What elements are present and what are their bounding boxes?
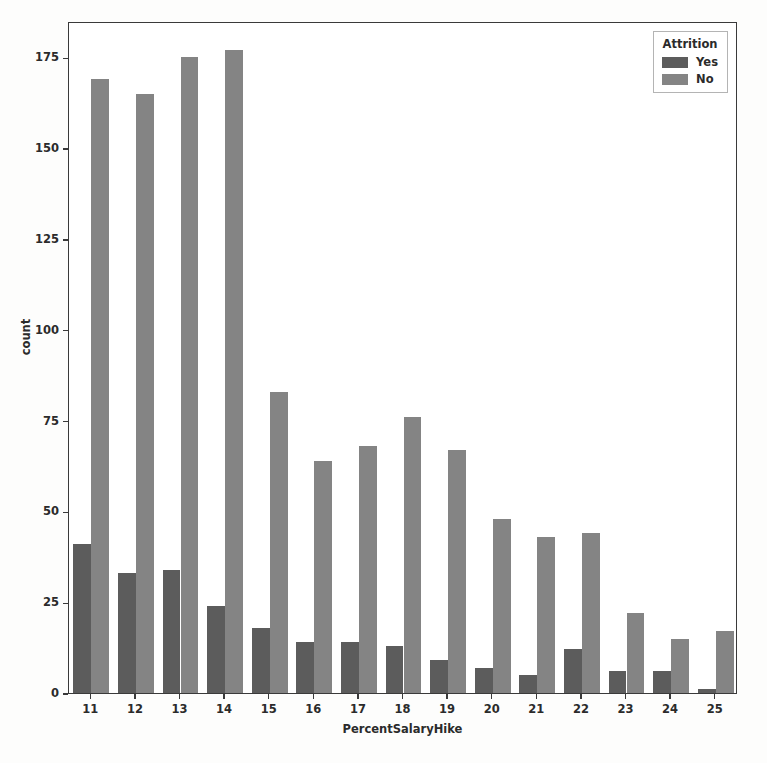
x-tick-label: 16 <box>299 702 327 716</box>
y-tick-mark <box>63 693 68 694</box>
bar-no-13 <box>181 57 199 693</box>
bar-yes-13 <box>163 570 181 694</box>
y-tick-label: 50 <box>43 504 59 518</box>
bar-no-12 <box>136 94 154 693</box>
y-tick-mark <box>63 512 68 513</box>
bar-yes-21 <box>519 675 537 693</box>
bar-no-21 <box>537 537 555 693</box>
bar-yes-25 <box>698 689 716 693</box>
x-tick-mark <box>669 694 670 699</box>
legend-swatch-no <box>662 74 688 85</box>
x-tick-label: 22 <box>567 702 595 716</box>
bar-no-22 <box>582 533 600 693</box>
x-tick-mark <box>268 694 269 699</box>
x-tick-mark <box>714 694 715 699</box>
x-tick-label: 23 <box>612 702 640 716</box>
bar-yes-23 <box>609 671 627 693</box>
x-tick-mark <box>179 694 180 699</box>
bar-no-20 <box>493 519 511 693</box>
chart-figure: count Attrition Yes No 02550751001251501… <box>0 0 767 763</box>
y-tick-mark <box>63 421 68 422</box>
x-tick-label: 20 <box>478 702 506 716</box>
bar-yes-16 <box>296 642 314 693</box>
y-tick-label: 150 <box>35 141 59 155</box>
plot-area: Attrition Yes No <box>68 22 737 694</box>
bar-yes-14 <box>207 606 225 693</box>
x-tick-mark <box>580 694 581 699</box>
y-tick-label: 100 <box>35 323 59 337</box>
y-tick-mark <box>63 58 68 59</box>
y-tick-mark <box>63 148 68 149</box>
x-tick-label: 21 <box>522 702 550 716</box>
x-tick-mark <box>402 694 403 699</box>
x-tick-label: 24 <box>656 702 684 716</box>
x-tick-label: 19 <box>433 702 461 716</box>
x-tick-label: 14 <box>210 702 238 716</box>
bar-no-24 <box>671 639 689 693</box>
x-tick-mark <box>536 694 537 699</box>
bar-yes-17 <box>341 642 359 693</box>
bar-yes-15 <box>252 628 270 693</box>
y-tick-label: 175 <box>35 50 59 64</box>
x-tick-mark <box>625 694 626 699</box>
bar-no-17 <box>359 446 377 693</box>
x-tick-label: 25 <box>701 702 729 716</box>
x-tick-label: 15 <box>255 702 283 716</box>
y-tick-mark <box>63 239 68 240</box>
bar-no-16 <box>314 461 332 693</box>
bar-yes-18 <box>386 646 404 693</box>
bar-no-25 <box>716 631 734 693</box>
bar-yes-12 <box>118 573 136 693</box>
x-axis-label: PercentSalaryHike <box>68 722 737 736</box>
x-tick-label: 12 <box>121 702 149 716</box>
bars-layer <box>69 23 736 693</box>
x-tick-label: 17 <box>344 702 372 716</box>
bar-no-23 <box>627 613 645 693</box>
bar-no-11 <box>91 79 109 693</box>
x-tick-label: 11 <box>76 702 104 716</box>
y-tick-label: 75 <box>43 414 59 428</box>
bar-yes-22 <box>564 649 582 693</box>
y-tick-mark <box>63 603 68 604</box>
x-tick-mark <box>357 694 358 699</box>
bar-no-19 <box>448 450 466 693</box>
legend-label-yes: Yes <box>696 55 718 69</box>
bar-yes-20 <box>475 668 493 693</box>
bar-no-15 <box>270 392 288 693</box>
y-tick-mark <box>63 330 68 331</box>
bar-yes-19 <box>430 660 448 693</box>
y-tick-label: 0 <box>51 686 59 700</box>
bar-no-14 <box>225 50 243 693</box>
legend-item-yes: Yes <box>662 55 718 69</box>
legend-swatch-yes <box>662 57 688 68</box>
x-tick-label: 18 <box>389 702 417 716</box>
bar-no-18 <box>404 417 422 693</box>
x-tick-mark <box>313 694 314 699</box>
x-tick-mark <box>446 694 447 699</box>
legend-item-no: No <box>662 72 718 86</box>
legend-title: Attrition <box>662 37 718 51</box>
y-tick-label: 125 <box>35 232 59 246</box>
legend-label-no: No <box>696 72 714 86</box>
bar-yes-24 <box>653 671 671 693</box>
y-axis-label: count <box>19 307 33 367</box>
x-tick-mark <box>223 694 224 699</box>
x-tick-label: 13 <box>166 702 194 716</box>
x-tick-mark <box>90 694 91 699</box>
x-tick-mark <box>134 694 135 699</box>
legend: Attrition Yes No <box>653 31 728 93</box>
y-tick-label: 25 <box>43 595 59 609</box>
bar-yes-11 <box>73 544 91 693</box>
x-tick-mark <box>491 694 492 699</box>
